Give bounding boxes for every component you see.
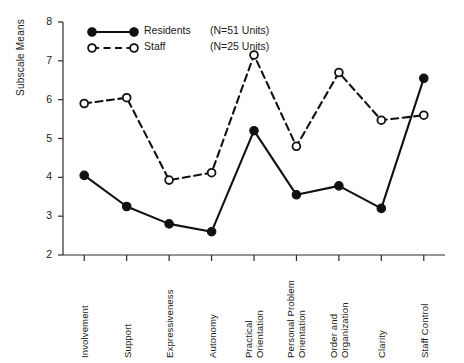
data-point-residents-0	[80, 171, 88, 179]
data-point-staff-5	[293, 142, 301, 150]
chart-series	[80, 51, 428, 236]
data-point-staff-3	[208, 169, 216, 177]
data-point-staff-6	[335, 69, 343, 77]
data-point-residents-2	[165, 220, 173, 228]
chart-plot-area	[0, 0, 464, 363]
data-point-residents-1	[123, 202, 131, 210]
data-point-residents-4	[250, 127, 258, 135]
data-point-staff-8	[420, 111, 428, 119]
data-point-residents-6	[335, 182, 343, 190]
data-point-staff-4	[250, 51, 258, 59]
data-point-staff-7	[377, 116, 385, 124]
legend-marker-staff-1	[130, 44, 138, 52]
data-point-residents-7	[377, 204, 385, 212]
legend-marker-residents-1	[130, 28, 138, 36]
data-point-residents-5	[292, 191, 300, 199]
legend-glyphs	[88, 28, 138, 52]
data-point-staff-0	[80, 100, 88, 108]
data-point-residents-8	[420, 74, 428, 82]
chart-figure: Subscale Means 8765432 Residents(N=51 Un…	[0, 0, 464, 363]
data-point-staff-2	[165, 176, 173, 184]
data-point-residents-3	[207, 228, 215, 236]
data-point-staff-1	[123, 94, 131, 102]
legend-marker-staff-0	[88, 44, 96, 52]
series-line-residents	[84, 78, 424, 231]
legend-marker-residents-0	[88, 28, 96, 36]
series-line-staff	[84, 55, 424, 180]
